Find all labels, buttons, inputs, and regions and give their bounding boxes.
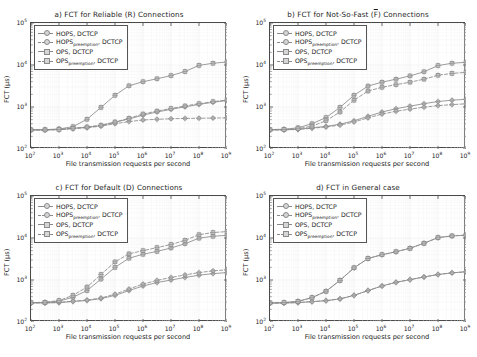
- legend-swatch-icon: [38, 220, 53, 229]
- panel-a-ylabel: FCT (µs): [3, 76, 11, 103]
- panel-b: b) FCT for Not-So-Fast (F) Connections 1…: [239, 10, 477, 180]
- panel-b-ytick-label: 103: [247, 102, 266, 110]
- legend-swatch-icon: [38, 47, 53, 56]
- figure-top-margin: [0, 0, 477, 8]
- legend-swatch-icon: [38, 29, 53, 38]
- legend-swatch-icon: [38, 202, 53, 211]
- legend-swatch-icon: [277, 57, 292, 66]
- panel-c-legend-item-1[interactable]: HOPSpreemption, DCTCP: [38, 211, 123, 220]
- panel-c-xtick-label: 102: [19, 324, 41, 332]
- panel-b-legend-item-1[interactable]: HOPSpreemption, DCTCP: [277, 38, 362, 47]
- panel-d-ylabel: FCT (µs): [242, 249, 250, 276]
- legend-label: OPS, DCTCP: [295, 221, 332, 228]
- panel-a-legend: HOPS, DCTCPHOPSpreemption, DCTCPOPS, DCT…: [34, 25, 128, 70]
- panel-c-legend: HOPS, DCTCPHOPSpreemption, DCTCPOPS, DCT…: [34, 198, 128, 243]
- panel-b-xtick-label: 102: [258, 151, 280, 159]
- legend-label: HOPSpreemption, DCTCP: [295, 38, 362, 47]
- panel-b-xtick-label: 103: [286, 151, 308, 159]
- panel-d-ytick-label: 105: [247, 191, 266, 199]
- panel-b-xtick-label: 107: [398, 151, 420, 159]
- panel-a-ytick-label: 104: [8, 60, 27, 68]
- panel-c: c) FCT for Default (D) Connections 10210…: [0, 183, 238, 357]
- panel-c-legend-item-3[interactable]: OPSpreemption, DCTCP: [38, 230, 123, 239]
- panel-a-legend-item-3[interactable]: OPSpreemption, DCTCP: [38, 57, 123, 66]
- panel-a: a) FCT for Reliable (R) Connections 1021…: [0, 10, 238, 180]
- panel-a-legend-item-1[interactable]: HOPSpreemption, DCTCP: [38, 38, 123, 47]
- legend-label: OPS, DCTCP: [295, 48, 332, 55]
- panel-a-xtick-label: 108: [187, 151, 209, 159]
- panel-d-xtick-label: 102: [258, 324, 280, 332]
- panel-b-title: b) FCT for Not-So-Fast (F) Connections: [239, 10, 477, 19]
- panel-b-legend-item-2[interactable]: OPS, DCTCP: [277, 47, 362, 56]
- panel-a-xlabel: File transmission requests per second: [30, 160, 226, 168]
- panel-b-legend-item-3[interactable]: OPSpreemption, DCTCP: [277, 57, 362, 66]
- panel-a-ytick-label: 103: [8, 102, 27, 110]
- panel-b-xtick-label: 104: [314, 151, 336, 159]
- panel-b-legend-item-0[interactable]: HOPS, DCTCP: [277, 29, 362, 38]
- panel-c-legend-item-2[interactable]: OPS, DCTCP: [38, 220, 123, 229]
- panel-a-xtick-label: 104: [75, 151, 97, 159]
- panel-b-ylabel: FCT (µs): [242, 76, 250, 103]
- panel-d: d) FCT in General case 10210310410510210…: [239, 183, 477, 357]
- legend-swatch-icon: [277, 211, 292, 220]
- panel-d-legend-item-1[interactable]: HOPSpreemption, DCTCP: [277, 211, 362, 220]
- panel-c-ylabel: FCT (µs): [3, 249, 11, 276]
- legend-label: OPS, DCTCP: [56, 48, 93, 55]
- panel-a-xtick-label: 107: [159, 151, 181, 159]
- panel-c-ytick-label: 104: [8, 233, 27, 241]
- panel-d-legend-item-2[interactable]: OPS, DCTCP: [277, 220, 362, 229]
- legend-label: HOPS, DCTCP: [295, 30, 337, 37]
- panel-d-xtick-label: 108: [426, 324, 448, 332]
- panel-a-legend-item-2[interactable]: OPS, DCTCP: [38, 47, 123, 56]
- panel-c-legend-item-0[interactable]: HOPS, DCTCP: [38, 202, 123, 211]
- panel-b-ytick-label: 105: [247, 18, 266, 26]
- panel-d-xtick-label: 106: [370, 324, 392, 332]
- panel-d-legend-item-0[interactable]: HOPS, DCTCP: [277, 202, 362, 211]
- panel-d-ytick-label: 103: [247, 275, 266, 283]
- panel-c-xtick-label: 105: [103, 324, 125, 332]
- legend-swatch-icon: [277, 220, 292, 229]
- panel-a-xtick-label: 106: [131, 151, 153, 159]
- panel-a-legend-item-0[interactable]: HOPS, DCTCP: [38, 29, 123, 38]
- panel-c-xtick-label: 104: [75, 324, 97, 332]
- panel-a-xtick-label: 105: [103, 151, 125, 159]
- panel-c-xtick-label: 109: [215, 324, 237, 332]
- panel-d-xlabel: File transmission requests per second: [269, 333, 465, 341]
- panel-d-legend-item-3[interactable]: OPSpreemption, DCTCP: [277, 230, 362, 239]
- panel-c-xtick-label: 103: [47, 324, 69, 332]
- panel-d-xtick-label: 105: [342, 324, 364, 332]
- panel-a-ytick-label: 105: [8, 18, 27, 26]
- panel-d-legend: HOPS, DCTCPHOPSpreemption, DCTCPOPS, DCT…: [273, 198, 367, 243]
- legend-label: HOPS, DCTCP: [56, 30, 98, 37]
- legend-label: HOPS, DCTCP: [56, 203, 98, 210]
- legend-label: HOPSpreemption, DCTCP: [56, 38, 123, 47]
- panel-a-xtick-label: 103: [47, 151, 69, 159]
- legend-swatch-icon: [277, 202, 292, 211]
- panel-c-xtick-label: 108: [187, 324, 209, 332]
- panel-d-ytick-label: 104: [247, 233, 266, 241]
- panel-c-xtick-label: 107: [159, 324, 181, 332]
- panel-d-title: d) FCT in General case: [239, 183, 477, 192]
- legend-label: HOPSpreemption, DCTCP: [295, 211, 362, 220]
- legend-swatch-icon: [38, 230, 53, 239]
- legend-label: OPSpreemption, DCTCP: [295, 57, 357, 66]
- figure-root: a) FCT for Reliable (R) Connections 1021…: [0, 0, 477, 357]
- legend-label: OPSpreemption, DCTCP: [56, 57, 118, 66]
- panel-a-title: a) FCT for Reliable (R) Connections: [0, 10, 238, 19]
- panel-c-ytick-label: 103: [8, 275, 27, 283]
- panel-b-xtick-label: 109: [454, 151, 476, 159]
- panel-c-ytick-label: 105: [8, 191, 27, 199]
- panel-a-xtick-label: 109: [215, 151, 237, 159]
- legend-swatch-icon: [38, 38, 53, 47]
- panel-d-xtick-label: 103: [286, 324, 308, 332]
- panel-c-xlabel: File transmission requests per second: [30, 333, 226, 341]
- panel-c-xtick-label: 106: [131, 324, 153, 332]
- legend-swatch-icon: [277, 47, 292, 56]
- panel-b-legend: HOPS, DCTCPHOPSpreemption, DCTCPOPS, DCT…: [273, 25, 367, 70]
- legend-swatch-icon: [277, 29, 292, 38]
- legend-label: HOPS, DCTCP: [295, 203, 337, 210]
- legend-swatch-icon: [38, 211, 53, 220]
- panel-c-title: c) FCT for Default (D) Connections: [0, 183, 238, 192]
- panel-b-ytick-label: 104: [247, 60, 266, 68]
- legend-label: OPSpreemption, DCTCP: [56, 230, 118, 239]
